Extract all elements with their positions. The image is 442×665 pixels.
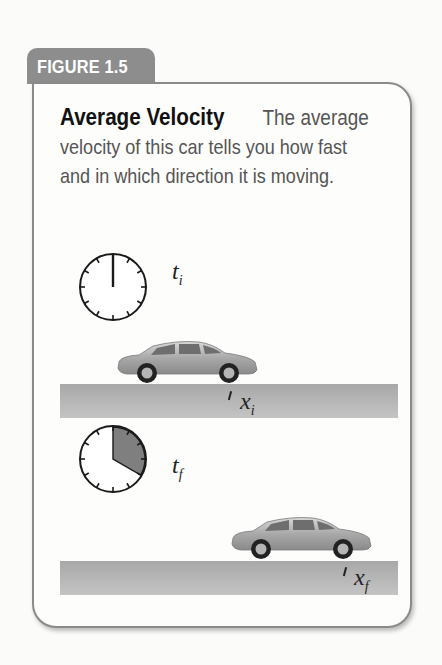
background-bleed-text [140, 6, 442, 27]
road-initial [60, 384, 398, 418]
figure-tab: FIGURE 1.5 [27, 48, 155, 84]
time-symbol: t [172, 452, 179, 478]
time-final-label: tf [172, 452, 183, 483]
caption-line-2: velocity of this car tells you how fast [60, 135, 347, 159]
position-symbol: x [240, 388, 251, 414]
car-final-icon [231, 516, 373, 562]
clock-initial-icon [79, 253, 147, 321]
position-symbol: x [354, 564, 365, 590]
road-final [60, 561, 398, 595]
caption-line-1: The average [235, 104, 369, 132]
position-subscript: f [365, 579, 369, 594]
figure-title: Average Velocity [60, 103, 224, 131]
figure-caption-first-line: Average Velocity The average [60, 103, 410, 132]
time-symbol: t [172, 258, 179, 284]
caption-line-3: and in which direction it is moving. [60, 164, 334, 188]
time-subscript: f [179, 467, 183, 482]
position-initial-label: xi [240, 388, 255, 419]
clock-final-icon [79, 425, 147, 493]
position-final-label: xf [354, 564, 369, 595]
car-initial-icon [117, 340, 259, 386]
time-subscript: i [179, 273, 183, 288]
position-subscript: i [251, 403, 255, 418]
figure-number: FIGURE 1.5 [37, 56, 128, 78]
time-initial-label: ti [172, 258, 183, 289]
